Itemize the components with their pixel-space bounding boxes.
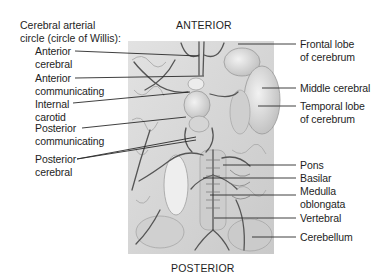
label-anterior-cerebral: Anterior cerebral [35, 45, 72, 70]
label-pons: Pons [300, 159, 324, 172]
label-frontal-lobe: Frontal lobe of cerebrum [300, 38, 355, 63]
label-cerebellum: Cerebellum [300, 231, 353, 244]
label-basilar: Basilar [300, 172, 331, 185]
label-internal-carotid: Internal carotid [35, 98, 69, 123]
orientation-anterior: ANTERIOR [176, 19, 232, 31]
heading-line-2: circle (circle of Willis): [20, 32, 121, 45]
label-middle-cerebral: Middle cerebral [300, 82, 370, 95]
label-anterior-communicating: Anterior communicating [35, 72, 104, 97]
heading-line-1: Cerebral arterial [20, 19, 121, 32]
diagram-heading: Cerebral arterial circle (circle of Will… [20, 19, 121, 45]
orientation-posterior: POSTERIOR [171, 262, 235, 274]
label-medulla-oblongata: Medulla oblongata [300, 185, 345, 210]
label-temporal-lobe: Temporal lobe of cerebrum [300, 100, 365, 125]
label-posterior-cerebral: Posterior cerebral [35, 153, 76, 178]
label-vertebral: Vertebral [300, 212, 341, 225]
label-posterior-communicating: Posterior communicating [35, 122, 104, 147]
